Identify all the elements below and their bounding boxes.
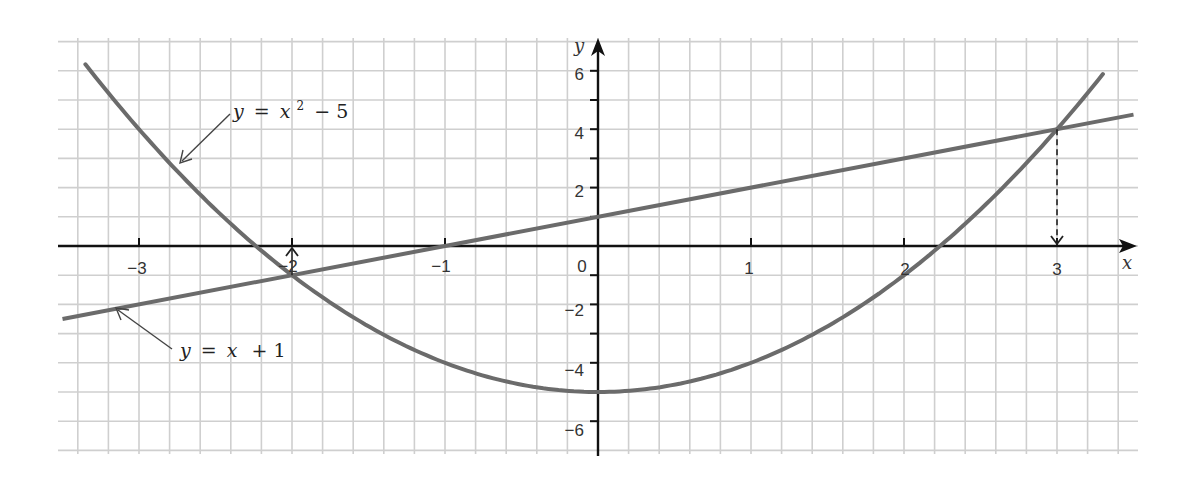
svg-text:y = x + 1: y = x + 1 (179, 339, 286, 361)
y-axis-label: y (573, 35, 585, 56)
x-tick-label: 1 (744, 259, 753, 278)
x-tick-label: 0 (577, 257, 586, 276)
y-tick-label: −6 (565, 421, 584, 440)
y-tick-label: 6 (575, 65, 584, 84)
x-tick-label: 3 (1052, 260, 1061, 279)
y-tick-label: 2 (575, 182, 584, 201)
x-tick-label: −2 (278, 257, 297, 276)
chart: −3 −2 −1 0 1 2 3 6 4 2 −2 −4 −6 y x y = … (0, 0, 1195, 489)
y-tick-label: 4 (575, 124, 584, 143)
y-tick-label: −2 (565, 301, 584, 320)
x-axis-label: x (1122, 252, 1132, 273)
x-tick-label: 2 (900, 260, 909, 279)
y-tick-label: −4 (565, 361, 584, 380)
svg-text:y = x 2: y = x 2 − 5 (232, 92, 348, 122)
x-tick-label: −3 (127, 259, 146, 278)
x-tick-label: −1 (431, 257, 450, 276)
